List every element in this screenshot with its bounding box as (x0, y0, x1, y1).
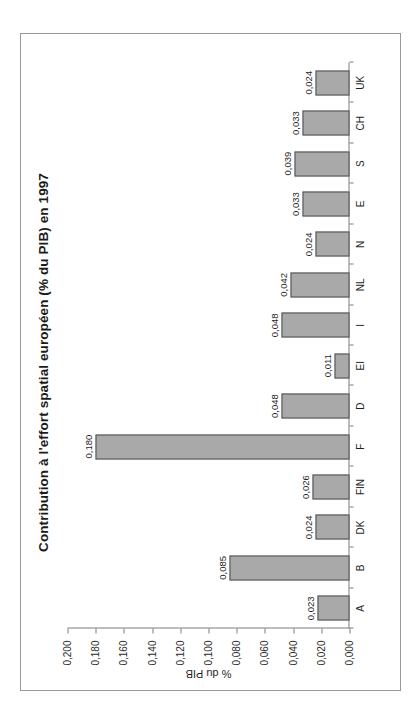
x-axis-category-label: FIN (354, 478, 365, 494)
x-axis-category-label: EI (354, 360, 365, 369)
bar-value-label: 0,033 (289, 111, 300, 135)
bar[interactable]: 0,042NL (290, 272, 349, 297)
bar[interactable]: 0,024DK (315, 514, 349, 539)
y-axis-tick: 0,000 (349, 628, 350, 633)
y-axis-tick: 0,120 (180, 628, 181, 633)
y-axis-tick: 0,100 (208, 628, 209, 633)
y-axis-tick-label: 0,060 (259, 640, 270, 665)
bar-value-label: 0,048 (268, 394, 279, 418)
bar-value-label: 0,042 (277, 272, 288, 296)
y-axis-tick: 0,040 (293, 628, 294, 633)
y-axis-tick-label: 0,000 (344, 640, 355, 665)
x-axis-tick (349, 627, 353, 628)
x-axis-category-label: I (354, 323, 365, 326)
rotated-chart-container: Contribution à l'effort spatial européen… (21, 34, 400, 690)
bar[interactable]: 0,048D (281, 393, 349, 418)
plot-area: 0,0000,0200,0400,0600,0800,1000,1200,140… (67, 62, 349, 628)
y-axis-tick: 0,160 (123, 628, 124, 633)
x-axis-tick (349, 587, 353, 588)
y-axis-tick-label: 0,080 (231, 640, 242, 665)
bar[interactable]: 0,011EI (334, 353, 350, 378)
y-axis-tick-label: 0,140 (146, 640, 157, 665)
bar[interactable]: 0,024N (315, 231, 349, 256)
x-axis-category-label: S (354, 160, 365, 167)
x-axis-tick (349, 182, 353, 183)
y-axis-tick: 0,060 (264, 628, 265, 633)
x-axis-tick (349, 101, 353, 102)
x-axis-tick (349, 223, 353, 224)
y-axis-tick-label: 0,020 (315, 640, 326, 665)
bar-value-label: 0,024 (302, 232, 313, 256)
bar-value-label: 0,011 (321, 354, 332, 377)
x-axis-category-label: B (354, 564, 365, 571)
x-axis-category-label: N (354, 240, 365, 247)
bar-value-label: 0,026 (299, 475, 310, 499)
x-axis-category-label: DK (354, 520, 365, 534)
bar[interactable]: 0,180F (95, 434, 349, 459)
y-axis-tick: 0,200 (67, 628, 68, 633)
y-axis-tick: 0,140 (152, 628, 153, 633)
x-axis-tick (349, 384, 353, 385)
scanned-page: Contribution à l'effort spatial européen… (0, 0, 418, 717)
x-axis-tick (349, 263, 353, 264)
x-axis-category-label: A (354, 604, 365, 611)
bar[interactable]: 0,033E (302, 191, 349, 216)
chart-canvas: Contribution à l'effort spatial européen… (21, 34, 400, 690)
bar-value-label: 0,048 (268, 313, 279, 337)
bar[interactable]: 0,039S (294, 151, 349, 176)
y-axis-tick: 0,020 (321, 628, 322, 633)
bar-value-label: 0,033 (289, 192, 300, 216)
y-axis-tick: 0,080 (236, 628, 237, 633)
x-axis-tick (349, 546, 353, 547)
y-axis-tick-label: 0,180 (90, 640, 101, 665)
x-axis-category-label: CH (354, 115, 365, 129)
bar[interactable]: 0,024UK (315, 70, 349, 95)
bar-value-label: 0,180 (82, 434, 93, 458)
x-axis-category-label: NL (354, 278, 365, 291)
bar-value-label: 0,085 (216, 555, 227, 579)
y-axis-title: % du PIB (67, 666, 349, 680)
bar[interactable]: 0,026FIN (312, 474, 349, 499)
x-axis-tick (349, 142, 353, 143)
x-axis-tick (349, 465, 353, 466)
bar[interactable]: 0,085B (229, 555, 349, 580)
y-axis-title-label: % du PIB (185, 667, 231, 679)
bar[interactable]: 0,033CH (302, 110, 349, 135)
bar-value-label: 0,024 (302, 515, 313, 539)
x-axis-tick (349, 344, 353, 345)
x-axis-tick (349, 304, 353, 305)
chart-frame: Contribution à l'effort spatial européen… (20, 33, 401, 691)
x-axis-tick (349, 61, 353, 62)
bar[interactable]: 0,023A (317, 595, 349, 620)
y-axis-tick-label: 0,100 (203, 640, 214, 665)
x-axis-category-label: D (354, 402, 365, 409)
bar-value-label: 0,023 (304, 596, 315, 620)
y-axis-tick-label: 0,200 (62, 640, 73, 665)
chart-title: Contribution à l'effort spatial européen… (35, 34, 50, 690)
x-axis-category-label: E (354, 200, 365, 207)
x-axis-category-label: UK (354, 75, 365, 89)
x-axis-category-label: F (354, 443, 365, 449)
bar-value-label: 0,024 (302, 70, 313, 94)
x-axis-tick (349, 425, 353, 426)
y-axis-tick: 0,180 (95, 628, 96, 633)
bar[interactable]: 0,048I (281, 312, 349, 337)
y-axis-tick-label: 0,040 (287, 640, 298, 665)
bar-value-label: 0,039 (281, 151, 292, 175)
x-axis-tick (349, 506, 353, 507)
y-axis-tick-label: 0,160 (118, 640, 129, 665)
y-axis-tick-label: 0,120 (174, 640, 185, 665)
